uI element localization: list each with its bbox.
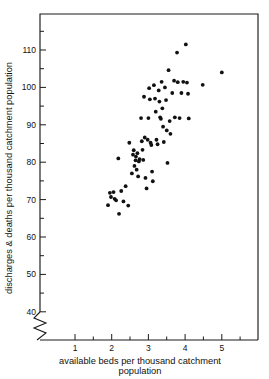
- x-axis-title-line1: available beds per thousand catchment: [59, 356, 221, 366]
- data-point: [106, 203, 110, 207]
- data-point: [149, 143, 153, 147]
- x-axis-title-line2: population: [119, 366, 162, 376]
- data-point: [181, 80, 185, 84]
- data-point: [151, 179, 155, 183]
- data-point: [167, 68, 171, 72]
- data-point: [170, 91, 174, 95]
- data-point: [163, 86, 167, 90]
- data-point: [165, 129, 169, 133]
- data-point: [134, 158, 138, 162]
- data-point: [135, 168, 139, 172]
- data-point: [146, 138, 150, 142]
- data-point: [166, 161, 170, 165]
- data-point: [175, 51, 179, 55]
- data-point: [114, 198, 118, 202]
- data-point: [148, 97, 152, 101]
- data-point: [156, 142, 160, 146]
- data-point: [124, 184, 128, 188]
- data-point: [138, 157, 142, 161]
- y-tick-label-50: 50: [27, 269, 37, 279]
- data-point: [141, 158, 145, 162]
- data-point: [119, 189, 123, 193]
- scatter-plot-figure: 110 100 90 80 70 60 50 40 1 2 3 4: [0, 0, 269, 379]
- data-point: [150, 170, 154, 174]
- data-point: [145, 186, 149, 190]
- data-point: [169, 132, 173, 136]
- data-point: [176, 80, 180, 84]
- data-point: [147, 86, 151, 90]
- data-point: [185, 81, 189, 85]
- x-tick-label-2: 2: [109, 343, 114, 353]
- y-tick-label-80: 80: [27, 157, 37, 167]
- data-point: [164, 98, 168, 102]
- y-tick-label-40: 40: [27, 307, 37, 317]
- x-axis-ticks: [75, 334, 240, 340]
- plot-canvas: 110 100 90 80 70 60 50 40 1 2 3 4: [0, 0, 269, 379]
- data-point: [162, 140, 166, 144]
- data-point: [117, 212, 121, 216]
- y-axis-title: discharges & deaths per thousand catchme…: [4, 62, 14, 294]
- data-point: [147, 116, 151, 120]
- data-point: [139, 116, 143, 120]
- data-points-layer: [106, 42, 224, 215]
- data-point: [184, 42, 188, 46]
- data-point: [122, 200, 126, 204]
- data-point: [155, 138, 159, 142]
- data-point: [187, 117, 191, 121]
- data-point: [153, 97, 157, 101]
- data-point: [134, 155, 138, 159]
- data-point: [133, 164, 137, 168]
- data-point: [116, 157, 120, 161]
- data-point: [130, 172, 134, 176]
- data-point: [180, 91, 184, 95]
- x-tick-label-5: 5: [219, 343, 224, 353]
- data-point: [178, 116, 182, 120]
- data-point: [152, 83, 156, 87]
- data-point: [141, 148, 145, 152]
- data-point: [201, 83, 205, 87]
- data-point: [127, 141, 131, 145]
- y-tick-label-60: 60: [27, 232, 37, 242]
- data-point: [142, 95, 146, 99]
- data-point: [173, 115, 177, 119]
- data-point: [160, 80, 164, 84]
- x-tick-label-4: 4: [183, 343, 188, 353]
- x-tick-label-1: 1: [73, 343, 78, 353]
- data-point: [144, 176, 148, 180]
- y-tick-label-100: 100: [22, 82, 36, 92]
- y-axis-tick-labels: 110 100 90 80 70 60 50 40: [22, 45, 36, 317]
- data-point: [158, 100, 162, 104]
- data-point: [160, 106, 164, 110]
- y-axis-ticks: [40, 31, 46, 312]
- plot-frame: [40, 14, 258, 340]
- data-point: [135, 151, 139, 155]
- data-point: [172, 79, 176, 83]
- data-point: [161, 125, 165, 129]
- data-point: [136, 175, 140, 179]
- y-tick-label-70: 70: [27, 195, 37, 205]
- data-point: [109, 195, 113, 199]
- data-point: [112, 190, 116, 194]
- data-point: [132, 148, 136, 152]
- data-point: [168, 119, 172, 123]
- data-point: [157, 88, 161, 92]
- data-point: [159, 117, 163, 121]
- y-tick-label-110: 110: [22, 45, 36, 55]
- data-point: [186, 92, 190, 96]
- data-point: [140, 139, 144, 143]
- data-point: [126, 204, 130, 208]
- y-tick-label-90: 90: [27, 120, 37, 130]
- data-point: [154, 110, 158, 114]
- x-axis-tick-labels: 1 2 3 4 5: [73, 343, 225, 353]
- x-tick-label-3: 3: [146, 343, 151, 353]
- data-point: [108, 191, 112, 195]
- data-point: [220, 71, 224, 75]
